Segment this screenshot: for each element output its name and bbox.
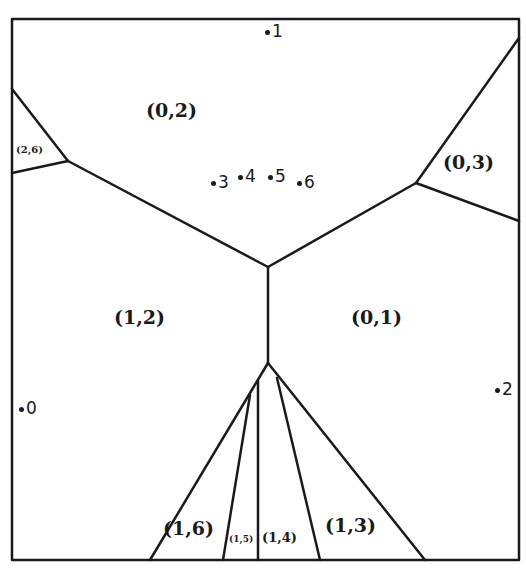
region-label-0-3: (0,3) [443,151,494,173]
point-1: 1 [265,21,283,41]
edge-2-6-lower [12,161,68,173]
region-label-2-6: (2,6) [16,144,43,155]
region-label-0-2: (0,2) [146,99,197,121]
edge-center-right [268,183,416,267]
point-5: 5 [268,166,286,186]
point-2: 2 [495,379,513,399]
point-4: 4 [238,166,256,186]
region-label-1-3: (1,3) [325,514,376,536]
point-0: 0 [19,398,37,418]
edge-0-3-lower [416,183,519,221]
point-dot-icon [268,175,273,180]
point-dot-icon [495,388,500,393]
point-3: 3 [211,172,229,192]
region-label-1-6: (1,6) [163,517,214,539]
region-label-1-2: (1,2) [114,306,165,328]
point-dot-icon [297,181,302,186]
region-label-0-1: (0,1) [351,306,402,328]
point-dot-icon [238,175,243,180]
region-label-1-5: (1,5) [229,534,253,544]
bounding-box [12,19,519,560]
region-label-1-4: (1,4) [262,530,297,545]
point-6: 6 [297,172,315,192]
voronoi-diagram [0,0,526,580]
point-dot-icon [265,30,270,35]
point-dot-icon [211,181,216,186]
point-dot-icon [19,407,24,412]
